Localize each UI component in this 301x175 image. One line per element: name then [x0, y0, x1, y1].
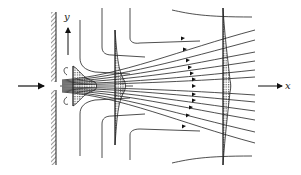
jet-diagram: y x [0, 0, 301, 175]
velocity-profile-1 [73, 66, 97, 106]
velocity-profile-2 [115, 30, 126, 145]
y-axis-label: y [63, 11, 70, 22]
x-axis-label: x [285, 80, 291, 91]
wall [51, 12, 56, 165]
y-axis: y [63, 11, 70, 55]
velocity-profile-3 [223, 8, 231, 165]
